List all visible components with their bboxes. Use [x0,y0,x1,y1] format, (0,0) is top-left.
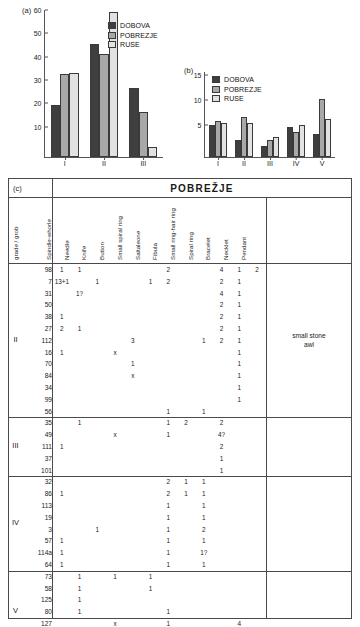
cell-value: 1 [60,264,64,276]
table-row: 121 [53,311,266,323]
grave-number: 3 [21,524,57,536]
cell-value: 1 [167,559,171,571]
grave-column: IIIIIIVV 9873150382711216708434995635491… [9,264,53,619]
notes-header-cell [267,198,351,263]
cell-value: 1 [238,264,242,276]
column-header-label: Small ring-hair ring [169,196,183,260]
cell-value: 2 [255,264,259,276]
bar-ruse-V [325,119,331,157]
cell-value: 4 [220,288,224,300]
grave-number: 16 [21,347,57,359]
bar-pobrezje-I [60,74,69,157]
group-label-column: IIIIIIVV [9,264,21,619]
y-axis-tick: 10 [34,123,45,130]
cell-value: 2 [167,276,171,288]
grave-number: 50 [21,299,57,311]
cell-value: 2 [60,323,64,335]
cell-value: x [114,347,117,359]
table-row: 11 [53,583,266,595]
cell-value: 1 [78,323,82,335]
grave-number: 19 [21,512,57,524]
bar-ruse-I [221,123,227,158]
cell-value: 1 [113,571,117,583]
cell-value: 1 [220,465,224,477]
table-row: 1 [53,394,266,406]
legend-label: POBREZJE [224,86,262,93]
table-title: POBREŽJE [53,179,351,197]
cell-value: 1 [78,571,82,583]
grave-number: 101 [21,465,57,477]
table-row: 111 [53,535,266,547]
grave-number: 86 [21,488,57,500]
legend-label: DOBOVA [120,22,150,29]
column-header-label: Necklet [222,196,236,260]
cell-value: 1 [184,476,188,488]
cell-value: 2 [167,488,171,500]
bar-ruse-I [69,73,78,157]
table-row: 11 [53,606,266,618]
cell-value: 1 [60,488,64,500]
x-axis-tick-II: II [242,157,246,167]
cell-value: 3 [131,335,135,347]
legend-item-ruse: RUSE [212,95,262,102]
legend-swatch [212,86,220,93]
cell-value: 1 [202,500,206,512]
group-divider [267,571,351,572]
column-header-label: Fibula [151,196,165,260]
chart-b: 51015IIIIIIIVV DOBOVAPOBREZJERUSE [180,0,360,172]
bar-dobova-III [129,88,138,157]
cell-value: 1 [167,406,171,418]
cell-value: 2 [220,299,224,311]
group-note: small stoneawl [267,331,351,349]
legend-swatch [212,95,220,102]
cell-value: 4 [238,618,242,627]
column-header-label: Bracelet [204,196,218,260]
table-row: 1 [53,594,266,606]
figure-root: (a) (b) 102030405060IIIIII DOBOVAPOBREZJ… [0,0,360,627]
cell-value: 1 [167,606,171,618]
legend-swatch [212,76,220,83]
cell-value: 2 [220,417,224,429]
x-axis-tick-V: V [320,157,325,167]
notes-column: small stoneawl [267,264,351,619]
grave-number: 84 [21,370,57,382]
cell-value: 1 [167,524,171,536]
table-header-row: grade / grob Spindle-whorleNeedleKnifeBu… [9,198,351,264]
cell-value: x [131,370,134,382]
cell-value: 1 [131,358,135,370]
bar-group [45,10,84,157]
cell-value: 1 [60,441,64,453]
legend-label: RUSE [224,95,244,102]
cell-value: 4? [218,429,225,441]
group-label-V: V [10,606,21,615]
grave-number: 112 [21,335,57,347]
table-row: 11 [53,512,266,524]
group-divider [267,417,351,418]
grave-number: 38 [21,311,57,323]
legend-label: POBREZJE [120,32,158,39]
cell-value: x [114,618,117,627]
y-axis-tick: 60 [34,7,45,14]
cell-value: 1 [78,606,82,618]
table-row: 3121 [53,335,266,347]
legend-swatch [108,41,116,48]
legend-swatch [108,32,116,39]
cell-value: 2 [220,311,224,323]
cell-value: 1 [167,535,171,547]
table-row: 111? [53,547,266,559]
legend-item-ruse: RUSE [108,41,158,48]
bar-ruse-III [148,147,157,158]
cell-value: 1 [167,618,171,627]
cell-value: 1 [60,535,64,547]
group-divider [267,476,351,477]
grave-number: 57 [21,535,57,547]
charts-region: (a) (b) 102030405060IIIIII DOBOVAPOBREZJ… [0,0,360,172]
cell-value: 2 [184,417,188,429]
cell-value: 1 [238,347,242,359]
legend-item-pobrezje: POBREZJE [212,86,262,93]
y-axis-tick: 10 [194,97,205,104]
cell-value: 1 [238,276,242,288]
cell-value: 1 [238,288,242,300]
group-divider [9,476,21,477]
cell-value: 1 [184,488,188,500]
